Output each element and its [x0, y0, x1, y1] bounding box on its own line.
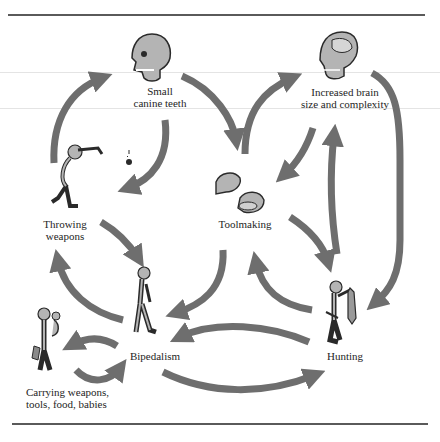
label-bipedalism: Bipedalism	[115, 350, 195, 362]
stone-projectile-icon	[124, 148, 134, 170]
arrow-toolmaking-to-brain	[245, 78, 292, 154]
label-hunting: Hunting	[310, 350, 380, 362]
label-line: Bipedalism	[115, 350, 195, 362]
arrow-brain-to-toolmaking	[284, 128, 313, 175]
hunter-figure-icon	[322, 278, 364, 346]
label-toolmaking: Toolmaking	[205, 218, 285, 230]
label-carrying: Carrying weapons, tools, food, babies	[26, 386, 136, 410]
arrow-hunting-to-toolmaking	[256, 262, 312, 310]
label-line: Throwing	[30, 218, 100, 230]
skull-icon	[130, 32, 174, 84]
label-line: weapons	[30, 230, 100, 242]
arrow-bipedalism-to-carrying	[72, 339, 117, 346]
skull-large-brain-icon	[318, 30, 360, 82]
label-line: Increased brain	[290, 86, 400, 98]
label-line: Toolmaking	[205, 218, 285, 230]
label-line: tools, food, babies	[26, 398, 136, 410]
label-line: Carrying weapons,	[26, 386, 136, 398]
arrow-toolmaking-to-hunting	[290, 217, 328, 262]
label-line: Hunting	[310, 350, 380, 362]
label-throwing-weapons: Throwing weapons	[30, 218, 100, 242]
arrow-hunting-to-bipedalism	[180, 326, 309, 342]
hands-stone-icon	[212, 168, 268, 216]
walking-figure-icon	[128, 264, 168, 336]
label-increased-brain: Increased brain size and complexity	[290, 86, 400, 110]
label-line: Small	[115, 85, 205, 97]
arrow-carrying-to-bipedalism	[76, 368, 120, 380]
label-line: size and complexity	[290, 98, 400, 110]
throwing-figure-icon	[40, 140, 110, 210]
label-small-canine-teeth: Small canine teeth	[115, 85, 205, 109]
arrow-bipedalism-to-hunting	[163, 372, 315, 390]
arrow-throwing-to-bipedalism	[101, 222, 138, 258]
label-line: canine teeth	[115, 97, 205, 109]
arrow-toolmaking-to-bipedalism	[176, 250, 223, 313]
arrow-hunting-to-brain	[331, 135, 337, 254]
carrying-figure-icon	[30, 306, 72, 376]
